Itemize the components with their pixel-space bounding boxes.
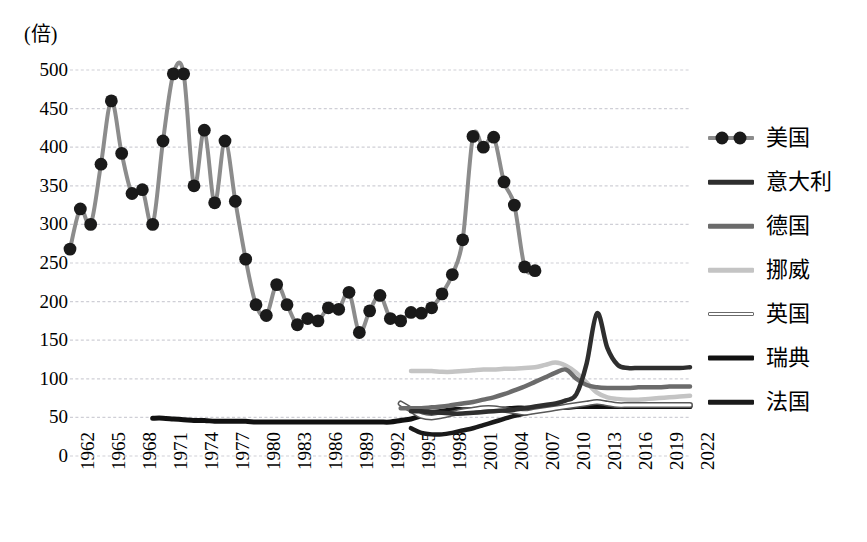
legend-marker-usa-0: [716, 132, 729, 145]
data-point-usa: [74, 203, 87, 216]
legend-label-uk: 英国: [756, 303, 810, 325]
data-point-usa: [456, 233, 469, 246]
series-line-usa: [70, 62, 535, 332]
legend-swatch-uk: [706, 304, 756, 324]
legend-line-france: [708, 400, 754, 405]
data-point-usa: [477, 141, 490, 154]
legend-item-italy[interactable]: 意大利: [706, 160, 866, 204]
data-point-usa: [239, 253, 252, 266]
legend-swatch-germany: [706, 216, 756, 236]
legend-label-norway: 挪威: [756, 259, 810, 281]
data-point-usa: [281, 298, 294, 311]
data-point-usa: [270, 278, 283, 291]
data-point-usa: [105, 94, 118, 107]
legend-label-italy: 意大利: [756, 171, 832, 193]
data-point-usa: [425, 301, 438, 314]
legend-item-norway[interactable]: 挪威: [706, 248, 866, 292]
data-point-usa: [157, 135, 170, 148]
data-point-usa: [332, 303, 345, 316]
legend-label-france: 法国: [756, 391, 810, 413]
data-point-usa: [508, 199, 521, 212]
data-point-usa: [312, 315, 325, 328]
legend-swatch-italy: [706, 172, 756, 192]
legend-line-uk: [708, 312, 754, 316]
series-usa: [64, 62, 542, 338]
data-point-usa: [436, 287, 449, 300]
data-point-usa: [250, 298, 263, 311]
chart-figure: (倍) 500450400350300250200150100500 19621…: [0, 0, 867, 542]
data-point-usa: [487, 131, 500, 144]
legend-item-france[interactable]: 法国: [706, 380, 866, 424]
data-point-usa: [115, 147, 128, 160]
data-point-usa: [188, 179, 201, 192]
legend-line-italy: [708, 180, 754, 185]
data-point-usa: [529, 264, 542, 277]
data-point-usa: [229, 195, 242, 208]
chart-legend: 美国意大利德国挪威英国瑞典法国: [706, 116, 866, 424]
data-point-usa: [219, 135, 232, 148]
legend-label-sweden: 瑞典: [756, 347, 810, 369]
data-point-usa: [363, 304, 376, 317]
data-point-usa: [177, 67, 190, 80]
data-point-usa: [64, 243, 77, 256]
data-point-usa: [208, 196, 221, 209]
legend-item-germany[interactable]: 德国: [706, 204, 866, 248]
data-point-usa: [95, 158, 108, 171]
data-point-usa: [467, 130, 480, 143]
data-point-usa: [260, 309, 273, 322]
data-point-usa: [353, 326, 366, 339]
data-point-usa: [394, 315, 407, 328]
data-point-usa: [374, 289, 387, 302]
legend-swatch-france: [706, 392, 756, 412]
data-point-usa: [446, 268, 459, 281]
legend-item-sweden[interactable]: 瑞典: [706, 336, 866, 380]
legend-marker-usa-1: [734, 132, 747, 145]
data-point-usa: [198, 124, 211, 137]
legend-line-germany: [708, 224, 754, 229]
legend-item-usa[interactable]: 美国: [706, 116, 866, 160]
legend-swatch-usa: [706, 128, 756, 148]
legend-label-germany: 德国: [756, 215, 810, 237]
data-point-usa: [136, 183, 149, 196]
data-point-usa: [146, 218, 159, 231]
data-point-usa: [84, 218, 97, 231]
data-point-usa: [343, 286, 356, 299]
legend-item-uk[interactable]: 英国: [706, 292, 866, 336]
legend-swatch-norway: [706, 260, 756, 280]
legend-label-usa: 美国: [756, 127, 810, 149]
data-point-usa: [498, 176, 511, 189]
legend-line-norway: [708, 268, 754, 273]
legend-swatch-sweden: [706, 348, 756, 368]
legend-line-sweden: [708, 356, 754, 361]
